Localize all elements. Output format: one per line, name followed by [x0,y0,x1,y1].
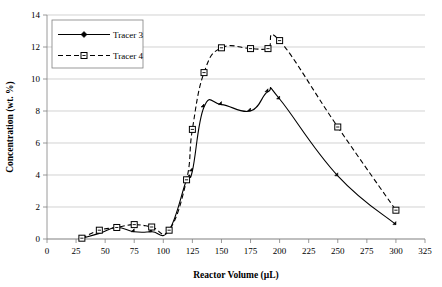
y-tick-label: 6 [36,138,41,148]
x-tick-label: 300 [389,246,403,256]
x-tick-label: 50 [101,246,111,256]
x-tick-label: 325 [418,246,432,256]
y-tick-label: 8 [36,106,41,116]
x-tick-label: 75 [130,246,140,256]
x-axis-title: Reactor Volume (µL) [193,270,279,281]
chart-legend: Tracer 3 Tracer 4 [52,20,143,68]
y-tick-label: 12 [31,42,40,52]
x-tick-label: 0 [45,246,50,256]
legend-label-tracer-3: Tracer 3 [113,30,143,40]
x-tick-label: 200 [273,246,287,256]
y-tick-label: 10 [31,74,41,84]
y-tick-label: 14 [31,10,41,20]
y-tick-label: 4 [36,170,41,180]
y-axis-title: Concentration (wt. %) [5,81,16,173]
concentration-vs-reactor-volume-chart: 0255075100125150175200225250275300325 02… [0,0,442,287]
x-tick-label: 25 [72,246,82,256]
x-tick-label: 125 [186,246,200,256]
legend-label-tracer-4: Tracer 4 [113,51,143,61]
x-tick-label: 275 [360,246,374,256]
x-tick-label: 225 [302,246,316,256]
y-tick-label: 0 [36,234,41,244]
chart-container: 0255075100125150175200225250275300325 02… [0,0,442,287]
x-tick-label: 100 [157,246,171,256]
x-tick-label: 175 [244,246,258,256]
y-tick-label: 2 [36,202,41,212]
x-tick-label: 150 [215,246,229,256]
x-tick-label: 250 [331,246,345,256]
